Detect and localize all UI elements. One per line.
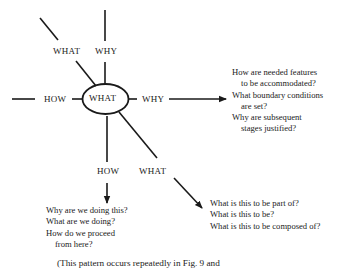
what-question-line: What is this to be part of? (210, 198, 320, 209)
why-question-line: What boundary conditions (232, 90, 323, 101)
why-question-line: How are needed features (232, 67, 323, 78)
branch-label-down: HOW (97, 167, 119, 176)
branch-label-right: WHY (142, 95, 164, 104)
center-node-label: WHAT (89, 94, 116, 103)
what-question-block: What is this to be part of? What is this… (210, 198, 320, 232)
down-right-line (119, 112, 157, 158)
what-question-line: What is this to be composed of? (210, 221, 320, 232)
why-question-line: Why are subsequent (232, 112, 323, 123)
branch-label-down-right: WHAT (139, 167, 166, 176)
up-left-line-inner (76, 61, 96, 86)
branch-label-left: HOW (44, 95, 66, 104)
how-question-block: Why are we doing this? What are we doing… (46, 205, 128, 250)
how-question-line: How do we proceed (46, 228, 128, 239)
what-question-line: What is this to be? (210, 209, 320, 220)
how-question-line: from here? (46, 239, 128, 250)
down-right-arrow (174, 178, 202, 208)
how-question-line: Why are we doing this? (46, 205, 128, 216)
branch-label-up-left: WHAT (53, 47, 80, 56)
branch-label-up: WHY (95, 47, 117, 56)
figure-caption: (This pattern occurs repeatedly in Fig. … (57, 258, 220, 268)
why-question-line: stages justified? (232, 123, 323, 134)
why-question-line: to be accommodated? (232, 78, 323, 89)
up-left-line-outer (40, 18, 58, 40)
why-question-line: are set? (232, 101, 323, 112)
how-question-line: What are we doing? (46, 216, 128, 227)
why-question-block: How are needed features to be accommodat… (232, 67, 323, 135)
